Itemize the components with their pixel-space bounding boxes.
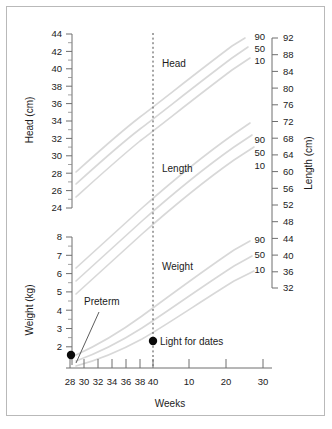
weight-ticklabel-4: 4 (57, 305, 62, 316)
x-ticklabel-20: 20 (221, 376, 232, 387)
x-ticklabel-40: 40 (148, 376, 159, 387)
x-ticklabel-36: 36 (121, 376, 132, 387)
head-centile-90-curve (76, 38, 245, 172)
x-ticklabel-38: 38 (135, 376, 146, 387)
length-ticklabel-36: 36 (283, 266, 294, 277)
weight-ticklabel-8: 8 (57, 231, 62, 242)
head-ticklabel-34: 34 (51, 115, 62, 126)
head-ticklabel-26: 26 (51, 185, 62, 196)
length-ticklabel-64: 64 (283, 149, 294, 160)
head-ticklabel-24: 24 (51, 202, 62, 213)
light-for-dates-marker-dot[interactable] (149, 337, 157, 345)
weight-ticklabel-2: 2 (57, 341, 62, 352)
length-ticklabel-84: 84 (283, 66, 294, 77)
length-ticklabel-32: 32 (283, 282, 294, 293)
head-ticklabel-30: 30 (51, 150, 62, 161)
x-ticklabel-30: 30 (79, 376, 90, 387)
length-ticklabel-80: 80 (283, 83, 294, 94)
weight-panel-label: Weight (162, 261, 193, 272)
length-axis-title: Length (cm) (303, 136, 314, 189)
length-percentile-50-label: 50 (254, 147, 265, 158)
length-ticklabel-60: 60 (283, 166, 294, 177)
weight-axis-title: Weight (kg) (24, 285, 35, 336)
head-ticklabel-36: 36 (51, 98, 62, 109)
length-ticklabel-72: 72 (283, 116, 294, 127)
head-ticklabel-38: 38 (51, 81, 62, 92)
head-ticklabel-42: 42 (51, 46, 62, 57)
weight-percentile-90-label: 90 (254, 234, 265, 245)
growth-chart-figure: 44 42 40 38 36 34 32 30 28 26 24 Head (c… (0, 0, 332, 429)
head-axis-title: Head (cm) (24, 97, 35, 144)
length-ticklabel-44: 44 (283, 233, 294, 244)
x-axis-group: 28 30 32 34 36 38 40 10 20 30 Weeks (65, 359, 272, 409)
weight-axis-group: 8 7 6 5 4 3 2 Weight (kg) (24, 231, 72, 365)
weight-centile-10-curve (76, 271, 254, 366)
head-axis-group: 44 42 40 38 36 34 32 30 28 26 24 Head (c… (24, 28, 72, 213)
preterm-marker-dot[interactable] (67, 351, 75, 359)
length-percentile-90-label: 90 (254, 134, 265, 145)
length-ticklabel-88: 88 (283, 49, 294, 60)
head-ticklabel-32: 32 (51, 133, 62, 144)
length-axis-group: 92 88 84 80 76 72 68 64 60 56 52 48 44 4… (272, 32, 314, 293)
length-ticklabel-48: 48 (283, 216, 294, 227)
x-ticklabel-30-postnatal: 30 (258, 376, 269, 387)
length-ticklabel-40: 40 (283, 250, 294, 261)
length-centile-50-curve (76, 135, 252, 281)
length-percentile-10-label: 10 (254, 160, 265, 171)
length-centile-90-curve (76, 123, 250, 268)
length-ticklabel-92: 92 (283, 32, 294, 43)
weight-percentile-labels: 90 50 10 (254, 234, 265, 275)
x-ticklabel-28: 28 (65, 376, 76, 387)
weight-percentile-50-label: 50 (254, 249, 265, 260)
head-ticklabel-44: 44 (51, 28, 62, 39)
growth-chart-svg: 44 42 40 38 36 34 32 30 28 26 24 Head (c… (0, 0, 332, 429)
length-ticklabel-56: 56 (283, 183, 294, 194)
weight-ticklabel-5: 5 (57, 286, 62, 297)
weight-ticklabel-7: 7 (57, 250, 62, 261)
length-ticklabel-76: 76 (283, 99, 294, 110)
head-panel-label: Head (162, 58, 186, 69)
head-ticklabel-40: 40 (51, 63, 62, 74)
x-ticklabel-34: 34 (107, 376, 118, 387)
annotation-light-for-dates[interactable]: Light for dates (149, 336, 224, 347)
preterm-leader-line (76, 312, 99, 363)
head-ticklabel-28: 28 (51, 168, 62, 179)
length-panel-label: Length (162, 163, 193, 174)
weight-ticklabel-3: 3 (57, 323, 62, 334)
head-percentile-10-label: 10 (254, 55, 265, 66)
length-percentile-labels: 90 50 10 (254, 134, 265, 171)
head-centile-10-curve (76, 58, 250, 197)
length-ticklabel-68: 68 (283, 133, 294, 144)
head-percentile-labels: 90 50 10 (254, 31, 265, 66)
head-percentile-90-label: 90 (254, 31, 265, 42)
weight-percentile-10-label: 10 (254, 264, 265, 275)
light-for-dates-label: Light for dates (160, 336, 223, 347)
head-percentile-50-label: 50 (254, 43, 265, 54)
weight-ticklabel-6: 6 (57, 268, 62, 279)
length-ticklabel-52: 52 (283, 199, 294, 210)
x-ticklabel-10: 10 (184, 376, 195, 387)
x-axis-title: Weeks (155, 398, 185, 409)
preterm-label: Preterm (84, 296, 120, 307)
x-ticklabel-32: 32 (93, 376, 104, 387)
